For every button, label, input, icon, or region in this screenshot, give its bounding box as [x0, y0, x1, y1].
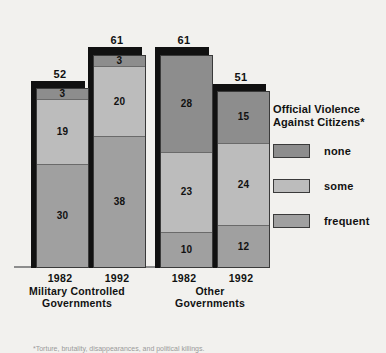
bar-military-1982[interactable]: 3 19 30	[36, 88, 89, 268]
segment-value: 15	[238, 112, 250, 122]
segment-value: 28	[181, 99, 193, 109]
group-title-other: Other Governments	[150, 285, 270, 309]
legend-label-frequent: frequent	[324, 215, 370, 227]
bar-total-label: 51	[212, 71, 270, 83]
bar-total-label: 61	[88, 34, 146, 46]
segment-value: 38	[114, 197, 126, 207]
chart-legend: Official Violence Against Citizens* none…	[273, 103, 385, 248]
legend-title-line1: Official Violence	[273, 103, 385, 116]
legend-label-some: some	[324, 180, 354, 192]
bar-slot-military-1992: 61 3 20 38	[88, 23, 146, 268]
segment-value: 12	[238, 242, 250, 252]
legend-item-some[interactable]: some	[273, 178, 385, 193]
bar-segment-none[interactable]: 15	[218, 92, 269, 144]
bar-total-label: 61	[155, 34, 213, 46]
x-tick-other-1982: 1982	[155, 272, 213, 284]
segment-value: 24	[238, 180, 250, 190]
legend-title: Official Violence Against Citizens*	[273, 103, 385, 129]
bar-segment-some[interactable]: 23	[161, 153, 212, 233]
plot-area: 52 3 19 30 61 3	[0, 0, 258, 300]
bar-total-label: 52	[31, 68, 89, 80]
legend-title-line2: Against Citizens*	[273, 116, 385, 129]
x-tick-military-1992: 1992	[88, 272, 146, 284]
segment-value: 19	[57, 127, 69, 137]
legend-label-none: none	[324, 145, 351, 157]
bar-segment-frequent[interactable]: 30	[37, 165, 88, 267]
segment-value: 23	[181, 187, 193, 197]
segment-value: 3	[117, 56, 123, 66]
bar-segment-none[interactable]: 28	[161, 56, 212, 153]
x-tick-military-1982: 1982	[31, 272, 89, 284]
bar-segment-some[interactable]: 24	[218, 144, 269, 226]
stacked-bar-chart: 52 3 19 30 61 3	[0, 0, 386, 353]
bar-military-1992[interactable]: 3 20 38	[93, 55, 146, 268]
bar-slot-military-1982: 52 3 19 30	[31, 58, 89, 268]
bar-segment-none[interactable]: 3	[94, 56, 145, 67]
group-title-line2: Governments	[12, 297, 142, 309]
bar-segment-some[interactable]: 19	[37, 100, 88, 165]
bar-segment-none[interactable]: 3	[37, 89, 88, 100]
legend-swatch-some	[273, 179, 310, 193]
segment-value: 3	[60, 89, 66, 99]
legend-item-frequent[interactable]: frequent	[273, 213, 385, 228]
bar-segment-frequent[interactable]: 38	[94, 137, 145, 267]
bar-segment-frequent[interactable]: 10	[161, 233, 212, 267]
segment-value: 20	[114, 97, 126, 107]
x-tick-other-1992: 1992	[212, 272, 270, 284]
group-title-line1: Military Controlled	[12, 285, 142, 297]
group-title-military: Military Controlled Governments	[12, 285, 142, 309]
legend-swatch-frequent	[273, 214, 310, 228]
group-title-line1: Other	[150, 285, 270, 297]
bar-slot-other-1982: 61 28 23 10	[155, 23, 213, 268]
segment-value: 30	[57, 211, 69, 221]
bar-other-1982[interactable]: 28 23 10	[160, 55, 213, 268]
group-title-line2: Governments	[150, 297, 270, 309]
legend-swatch-none	[273, 144, 310, 158]
bar-segment-some[interactable]: 20	[94, 67, 145, 137]
bar-other-1992[interactable]: 15 24 12	[217, 91, 270, 268]
bar-slot-other-1992: 51 15 24 12	[212, 58, 270, 268]
chart-footnote: *Torture, brutality, disappearances, and…	[33, 345, 283, 353]
segment-value: 10	[181, 245, 193, 255]
bar-segment-frequent[interactable]: 12	[218, 226, 269, 267]
legend-item-none[interactable]: none	[273, 143, 385, 158]
